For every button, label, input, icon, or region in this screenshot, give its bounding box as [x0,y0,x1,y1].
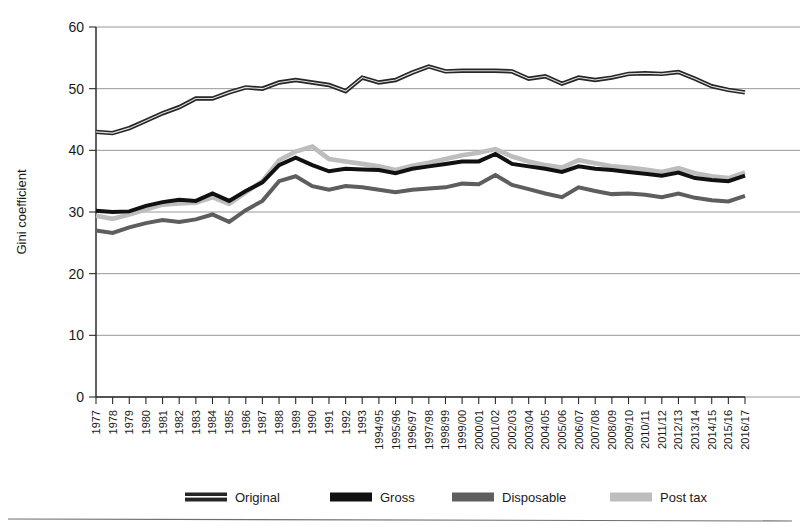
x-tick-label: 2009/10 [623,410,635,450]
x-tick-label: 2005/06 [556,410,568,450]
legend-label-gross: Gross [380,490,415,505]
y-tick-label: 50 [68,81,84,97]
x-tick-label: 1987 [256,410,268,434]
x-tick-label: 1980 [140,410,152,434]
y-tick-label: 20 [68,266,84,282]
x-tick-label: 1991 [323,410,335,434]
series-line-post-tax [96,147,745,219]
legend-swatch-highlight [185,496,227,498]
x-tick-label: 1984 [206,410,218,434]
x-tick-label: 2013/14 [689,410,701,450]
x-tick-label: 1994/95 [373,410,385,450]
legend-label-post-tax: Post tax [660,490,707,505]
x-tick-label: 1992 [340,410,352,434]
legend-swatch-fill [610,493,652,502]
x-tick-label: 1981 [157,410,169,434]
footer-divider [8,519,792,521]
legend-label-original: Original [235,490,280,505]
chart-canvas: 0102030405060Gini coefficient19771978197… [0,0,800,526]
x-tick-label: 1995/96 [390,410,402,450]
x-axis-ticks-group: 1977197819791980198119821983198419851986… [90,397,751,450]
y-tick-label: 0 [76,389,84,405]
x-tick-label: 2006/07 [573,410,585,450]
x-tick-label: 2001/02 [489,410,501,450]
legend-swatch-gross [330,493,372,502]
x-tick-label: 1977 [90,410,102,434]
legend-label-disposable: Disposable [502,490,566,505]
x-tick-label: 1988 [273,410,285,434]
x-tick-label: 1999/00 [456,410,468,450]
x-tick-label: 2003/04 [523,410,535,450]
y-axis-title: Gini coefficient [14,169,29,254]
x-tick-label: 1985 [223,410,235,434]
legend-swatch-post-tax [610,493,652,502]
x-tick-label: 2014/15 [706,410,718,450]
x-tick-label: 1998/99 [439,410,451,450]
y-axis-ticks-group: 0102030405060 [68,19,96,405]
x-tick-label: 2008/09 [606,410,618,450]
x-tick-label: 2007/08 [589,410,601,450]
x-tick-label: 1996/97 [406,410,418,450]
gini-coefficient-line-chart: 0102030405060Gini coefficient19771978197… [0,0,800,526]
legend-swatch-original [185,493,227,502]
x-tick-label: 2015/16 [722,410,734,450]
y-tick-label: 60 [68,19,84,35]
series-line-original-inner-highlight [96,66,745,133]
x-tick-label: 1990 [306,410,318,434]
x-tick-label: 2011/12 [656,410,668,449]
x-tick-label: 1983 [190,410,202,434]
x-tick-label: 2002/03 [506,410,518,450]
legend-swatch-fill [330,493,372,502]
x-tick-label: 2000/01 [473,410,485,450]
x-tick-label: 2012/13 [672,410,684,450]
x-tick-label: 1993 [356,410,368,434]
x-tick-label: 1979 [123,410,135,434]
legend-swatch-disposable [452,493,494,502]
x-tick-label: 1997/98 [423,410,435,450]
y-tick-label: 30 [68,204,84,220]
x-tick-label: 2004/05 [539,410,551,450]
y-tick-label: 10 [68,327,84,343]
x-tick-label: 1982 [173,410,185,434]
y-tick-label: 40 [68,142,84,158]
x-tick-label: 1978 [107,410,119,434]
gridlines-group [96,27,800,397]
x-tick-label: 2010/11 [639,410,651,449]
x-tick-label: 1986 [240,410,252,434]
series-group [96,66,745,233]
legend-swatch-fill [452,493,494,502]
x-tick-label: 1989 [290,410,302,434]
x-tick-label: 2016/17 [739,410,751,450]
legend: OriginalGrossDisposablePost tax [185,490,707,505]
